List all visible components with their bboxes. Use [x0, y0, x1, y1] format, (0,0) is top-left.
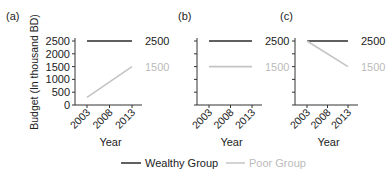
series-line-poor-group [87, 67, 132, 98]
y-tick-label: 1500 [46, 61, 70, 73]
y-tick-label: 1000 [46, 73, 70, 85]
x-tick-label: 2003 [189, 106, 214, 131]
panel-label: (a) [6, 10, 19, 22]
series-end-label: 2500 [265, 35, 289, 47]
series-end-label: 2500 [145, 35, 169, 47]
series-end-label: 2500 [361, 35, 385, 47]
panel-label: (b) [178, 10, 191, 22]
x-tick-label: 2003 [67, 106, 92, 131]
x-tick-label: 2013 [328, 106, 353, 131]
y-axis-label: Budget (In thousand BD) [28, 14, 40, 130]
x-tick-label: 2008 [90, 106, 115, 131]
series-end-label: 1500 [361, 61, 385, 73]
y-tick-label: 500 [52, 86, 70, 98]
chart-canvas: Budget (In thousand BD) (a)0500100015002… [0, 0, 390, 178]
legend-poor-label: Poor Group [249, 157, 306, 169]
y-tick-label: 2000 [46, 48, 70, 60]
legend-wealthy-label: Wealthy Group [145, 157, 218, 169]
x-axis-label: Year [220, 136, 243, 148]
budget-figure: Budget (In thousand BD) (a)0500100015002… [0, 0, 390, 178]
series-end-label: 1500 [145, 61, 169, 73]
series-line-poor-group [307, 41, 348, 67]
y-tick-label: 0 [64, 99, 70, 111]
panel-c: (c)200320082013Year25001500 [280, 10, 385, 148]
x-tick-label: 2013 [112, 106, 137, 131]
x-tick-label: 2008 [308, 106, 333, 131]
legend: Wealthy Group Poor Group [121, 157, 306, 169]
x-axis-label: Year [99, 136, 122, 148]
series-end-label: 1500 [265, 61, 289, 73]
panel-label: (c) [280, 10, 293, 22]
y-tick-label: 2500 [46, 35, 70, 47]
x-tick-label: 2003 [287, 106, 312, 131]
x-tick-label: 2013 [232, 106, 257, 131]
x-axis-label: Year [317, 136, 340, 148]
x-tick-label: 2008 [211, 106, 236, 131]
panel-b: (b)200320082013Year25001500 [178, 10, 289, 148]
